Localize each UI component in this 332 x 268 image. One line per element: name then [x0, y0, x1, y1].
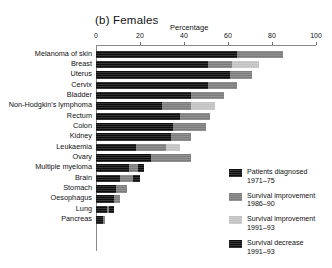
- stacked-bar: [96, 154, 191, 162]
- category-label: Uterus: [0, 70, 92, 78]
- stacked-bar: [96, 164, 144, 172]
- legend-label: Patients diagnosed1971–75: [247, 168, 307, 185]
- legend-label-line1: Survival decrease: [247, 239, 303, 248]
- stacked-bar: [96, 133, 191, 141]
- bar-segment: [96, 82, 208, 90]
- bar-segment: [96, 51, 237, 59]
- category-label: Rectum: [0, 112, 92, 120]
- bar-segment: [114, 195, 121, 203]
- x-tick-label: 40: [180, 32, 188, 39]
- bar-segment: [232, 61, 258, 69]
- category-label: Pancreas: [0, 215, 92, 223]
- legend-swatch: [229, 193, 242, 201]
- legend-label-line2: 1991–93: [247, 248, 303, 257]
- x-tick-mark: [228, 42, 229, 45]
- bar-segment: [166, 144, 179, 152]
- category-label: Stomach: [0, 184, 92, 192]
- category-label: Brain: [0, 174, 92, 182]
- bar-segment: [109, 206, 113, 214]
- stacked-bar: [96, 61, 259, 69]
- bar-segment: [96, 185, 116, 193]
- category-label: Oesophagus: [0, 194, 92, 202]
- bar-segment: [171, 133, 191, 141]
- chart-row: Leukaemia: [0, 143, 332, 153]
- bar-segment: [162, 102, 191, 110]
- bar-segment: [96, 216, 103, 224]
- bar-segment: [96, 92, 191, 100]
- bar-segment: [237, 51, 283, 59]
- category-label: Kidney: [0, 132, 92, 140]
- bar-segment: [96, 113, 180, 121]
- legend-label-line1: Survival improvement: [247, 215, 315, 224]
- bar-segment: [129, 164, 138, 172]
- chart-container: (b) Females Percentage 020406080100Melan…: [0, 0, 332, 268]
- chart-row: Colon: [0, 122, 332, 132]
- bar-segment: [116, 185, 127, 193]
- legend-swatch: [229, 169, 242, 177]
- category-label: Ovary: [0, 153, 92, 161]
- category-label: Colon: [0, 122, 92, 130]
- category-label: Melanoma of skin: [0, 50, 92, 58]
- bar-segment: [96, 102, 162, 110]
- bar-segment: [180, 113, 211, 121]
- stacked-bar: [96, 216, 105, 224]
- bar-segment: [230, 71, 252, 79]
- x-axis-line: [96, 45, 316, 46]
- legend-label: Survival improvement1991–93: [247, 215, 315, 232]
- category-label: Breast: [0, 60, 92, 68]
- stacked-bar: [96, 144, 180, 152]
- legend-item: Survival improvement1986–90: [229, 192, 329, 209]
- x-tick-mark: [140, 42, 141, 45]
- bar-segment: [96, 133, 171, 141]
- stacked-bar: [96, 113, 210, 121]
- stacked-bar: [96, 71, 252, 79]
- bar-segment: [208, 61, 232, 69]
- bar-segment: [96, 164, 129, 172]
- bar-segment: [96, 123, 173, 131]
- bar-segment: [136, 144, 167, 152]
- bar-segment: [151, 154, 191, 162]
- chart-row: Non-Hodgkin's lymphoma: [0, 101, 332, 111]
- chart-row: Cervix: [0, 81, 332, 91]
- stacked-bar: [96, 82, 237, 90]
- category-label: Lung: [0, 205, 92, 213]
- chart-legend: Patients diagnosed1971–75Survival improv…: [229, 168, 329, 263]
- legend-label-line1: Survival improvement: [247, 192, 315, 201]
- bar-segment: [96, 175, 120, 183]
- chart-row: Uterus: [0, 70, 332, 80]
- category-label: Non-Hodgkin's lymphoma: [0, 101, 92, 109]
- category-label: Multiple myeloma: [0, 163, 92, 171]
- bar-segment: [96, 71, 230, 79]
- x-tick-label: 0: [94, 32, 98, 39]
- chart-row: Kidney: [0, 132, 332, 142]
- bar-segment: [103, 216, 105, 224]
- chart-row: Melanoma of skin: [0, 50, 332, 60]
- bar-segment: [191, 102, 215, 110]
- x-tick-label: 20: [136, 32, 144, 39]
- bar-segment: [191, 92, 224, 100]
- bar-segment: [133, 175, 140, 183]
- category-label: Leukaemia: [0, 143, 92, 151]
- legend-label: Survival decrease1991–93: [247, 239, 303, 256]
- stacked-bar: [96, 185, 127, 193]
- x-tick-mark: [184, 42, 185, 45]
- bar-segment: [173, 123, 206, 131]
- bar-segment: [96, 61, 208, 69]
- legend-item: Patients diagnosed1971–75: [229, 168, 329, 185]
- stacked-bar: [96, 175, 140, 183]
- x-tick-label: 60: [224, 32, 232, 39]
- stacked-bar: [96, 195, 120, 203]
- x-tick-mark: [272, 42, 273, 45]
- category-label: Cervix: [0, 81, 92, 89]
- stacked-bar: [96, 123, 206, 131]
- bar-segment: [96, 195, 114, 203]
- bar-segment: [96, 206, 107, 214]
- legend-label: Survival improvement1986–90: [247, 192, 315, 209]
- legend-label-line1: Patients diagnosed: [247, 168, 307, 177]
- category-label: Bladder: [0, 91, 92, 99]
- bar-segment: [208, 82, 237, 90]
- stacked-bar: [96, 102, 215, 110]
- x-tick-label: 100: [310, 32, 322, 39]
- bar-segment: [96, 154, 151, 162]
- legend-swatch: [229, 216, 242, 224]
